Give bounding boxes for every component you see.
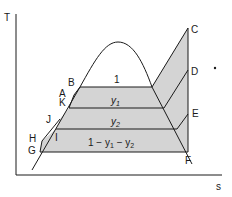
s-axis-label: s	[216, 181, 221, 192]
point-i-label: I	[55, 132, 58, 143]
point-g-label: G	[28, 145, 36, 156]
point-h-label: H	[29, 133, 36, 144]
point-e-label: E	[192, 108, 199, 119]
point-d-label: D	[191, 66, 198, 77]
point-k-label: K	[59, 97, 66, 108]
region-1-label: 1	[114, 74, 120, 85]
point-c-label: C	[191, 24, 198, 35]
point-j-label: J	[46, 114, 51, 125]
stray-dot	[214, 67, 216, 69]
point-b-label: B	[68, 77, 75, 88]
point-f-label: F	[185, 155, 191, 166]
ts-diagram: T s B A K J H G I C D E F 1 y1 y2 1 − y1…	[0, 0, 232, 197]
t-axis-label: T	[4, 12, 10, 23]
